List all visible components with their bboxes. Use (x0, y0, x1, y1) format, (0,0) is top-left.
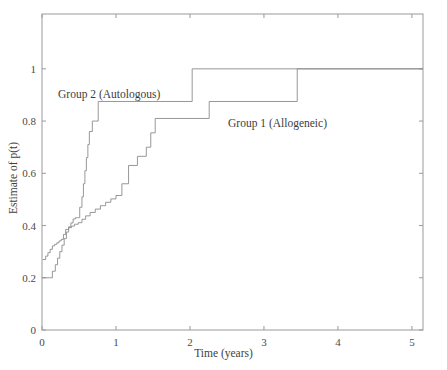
series-layer (42, 69, 423, 278)
y-tick-label: 1 (8, 63, 36, 75)
plot-svg (0, 0, 447, 370)
series-annotation-group-1: Group 1 (Allogeneic) (228, 117, 327, 129)
y-tick-label: 0.2 (8, 272, 36, 284)
x-axis-title: Time (years) (0, 347, 447, 359)
y-tick-marks (42, 69, 423, 330)
survival-curve-figure: 01234500.20.40.60.81 Time (years) Estima… (0, 0, 447, 370)
axes-frame (42, 14, 423, 330)
series-annotation-group-2: Group 2 (Autologous) (58, 88, 160, 100)
y-tick-label: 0 (8, 324, 36, 336)
series-line-2 (42, 69, 423, 278)
y-axis-title: Estimate of p(t) (7, 118, 19, 238)
x-tick-marks (42, 14, 412, 330)
